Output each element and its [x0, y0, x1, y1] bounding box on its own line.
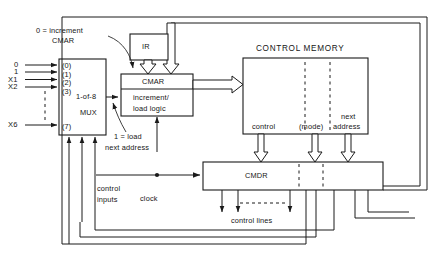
control-memory-title: CONTROL MEMORY	[256, 44, 345, 53]
annotation-increment-line1: 0 = increment	[36, 26, 83, 35]
annotation-control-lines: control lines	[231, 216, 272, 225]
mux-port-7: (7)	[62, 122, 71, 131]
memory-field-mode: (mode)	[299, 122, 323, 131]
mux-label-line1: 1-of-8	[76, 92, 96, 101]
mux-label-line2: MUX	[80, 108, 97, 117]
annotation-increment-line2: CMAR	[52, 36, 74, 45]
annotation-load-line2: next address	[105, 143, 149, 152]
annotation-control-inputs-line1: control	[97, 184, 120, 193]
memory-field-control: control	[252, 122, 275, 131]
cmar-logic-line1: increment/	[133, 93, 169, 102]
ir-block-label: IR	[142, 42, 150, 51]
annotation-control-inputs-line2: inputs	[97, 195, 118, 204]
annotation-clock: clock	[140, 194, 158, 203]
memory-field-next-address-line2: address	[333, 122, 360, 131]
cmar-block-label: CMAR	[142, 77, 164, 86]
cmar-logic-line2: load logic	[133, 104, 166, 113]
microprogram-control-unit-diagram: 0 = increment CMAR 0 1 X1 X2 X6 (0) (1) …	[0, 0, 437, 279]
mux-port-3: (3)	[62, 87, 71, 96]
cmdr-block-label: CMDR	[245, 171, 268, 180]
annotation-load-line1: 1 = load	[114, 132, 142, 141]
memory-field-next-address-line1: next	[341, 112, 356, 121]
mux-input-label-x2: X2	[8, 82, 18, 91]
mux-input-label-x6: X6	[8, 120, 18, 129]
